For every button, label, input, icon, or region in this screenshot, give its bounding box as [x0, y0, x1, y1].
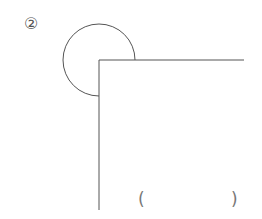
answer-open-paren: (	[138, 191, 145, 208]
diagram-canvas: ② ( )	[0, 0, 262, 219]
answer-blank[interactable]	[150, 190, 228, 210]
angle-figure	[0, 0, 262, 219]
answer-close-paren: )	[231, 191, 238, 208]
